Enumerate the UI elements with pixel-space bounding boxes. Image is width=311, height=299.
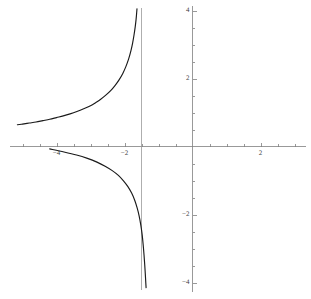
x-tick-label: −2 xyxy=(121,149,129,157)
curve-branch-right xyxy=(50,149,146,288)
y-tick-label: 2 xyxy=(186,74,190,82)
curve-group xyxy=(17,9,146,288)
y-tick-label: −4 xyxy=(182,278,190,286)
x-tick-label: 2 xyxy=(259,149,263,157)
plot-canvas: −4−22 42−2−4 xyxy=(0,0,311,299)
y-axis-ticks xyxy=(193,12,197,284)
function-plot: −4−22 42−2−4 xyxy=(0,0,311,299)
curve-branch-left xyxy=(17,9,137,125)
y-tick-label: −2 xyxy=(182,210,190,218)
x-tick-label: −4 xyxy=(53,149,61,157)
y-tick-label: 4 xyxy=(186,6,190,14)
x-axis-ticks xyxy=(24,143,296,147)
x-axis-tick-labels: −4−22 xyxy=(53,149,263,157)
